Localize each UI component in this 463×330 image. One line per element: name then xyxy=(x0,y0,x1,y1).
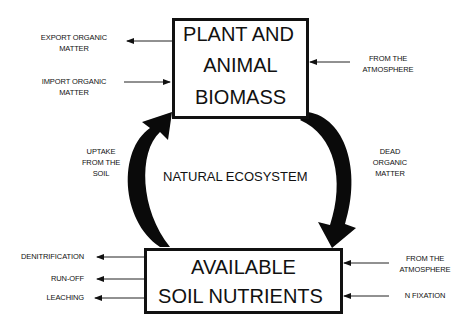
runoff-label: RUN-OFF xyxy=(14,273,84,284)
leaching-label: LEACHING xyxy=(14,292,84,303)
denitrification-label: DENITRIFICATION xyxy=(14,251,84,262)
nutrient-cycle-diagram: PLANT AND ANIMAL BIOMASS AVAILABLE SOIL … xyxy=(0,0,463,330)
biomass-from-atmosphere-label: FROM THE ATMOSPHERE xyxy=(356,53,420,75)
soil-from-atmosphere-label: FROM THE ATMOSPHERE xyxy=(393,253,457,275)
available-soil-nutrients-box: AVAILABLE SOIL NUTRIENTS xyxy=(144,248,343,314)
plant-animal-biomass-box: PLANT AND ANIMAL BIOMASS xyxy=(172,18,309,119)
import-organic-matter-label: IMPORT ORGANIC MATTER xyxy=(28,76,120,98)
soil-line-2: SOIL NUTRIENTS xyxy=(141,286,340,306)
dead-organic-matter-label: DEAD ORGANIC MATTER xyxy=(362,146,418,179)
soil-line-1: AVAILABLE xyxy=(147,257,340,277)
uptake-label: UPTAKE FROM THE SOIL xyxy=(69,146,133,179)
natural-ecosystem-label: NATURAL ECOSYSTEM xyxy=(163,169,307,184)
n-fixation-label: N FIXATION xyxy=(393,290,457,301)
biomass-line-1: PLANT AND xyxy=(171,24,306,44)
dead-organic-matter-cycle-arrow xyxy=(300,112,356,248)
biomass-line-2: ANIMAL xyxy=(175,55,306,75)
biomass-line-3: BIOMASS xyxy=(175,87,306,107)
export-organic-matter-label: EXPORT ORGANIC MATTER xyxy=(28,32,120,54)
